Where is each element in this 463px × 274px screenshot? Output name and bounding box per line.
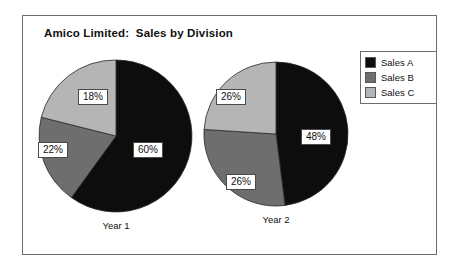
legend-label-sales-c: Sales C [381,87,414,98]
legend-swatch-sales-c [365,87,376,98]
pie-year-1-caption: Year 1 [38,220,194,231]
pie-year-1-label-sales-a: 60% [133,142,163,158]
legend-label-sales-b: Sales B [381,72,414,83]
pie-year-2-caption: Year 2 [202,214,350,225]
legend-item-sales-a[interactable]: Sales A [365,55,432,70]
pie-year-2-slice-sales-b[interactable] [204,129,285,206]
legend-item-sales-b[interactable]: Sales B [365,70,432,85]
chart-legend: Sales A Sales B Sales C [360,51,437,104]
pie-year-1-graphic [38,58,194,214]
pie-year-1-label-sales-c: 18% [78,89,108,105]
pie-year-2-label-sales-a: 48% [301,129,331,145]
legend-item-sales-c[interactable]: Sales C [365,85,432,100]
pie-year-2-label-sales-c: 26% [216,89,246,105]
legend-swatch-sales-a [365,57,376,68]
legend-label-sales-a: Sales A [381,57,413,68]
legend-swatch-sales-b [365,72,376,83]
chart-frame: Amico Limited: Sales by Division Sales A… [22,15,437,255]
pie-year-1-label-sales-b: 22% [38,142,68,158]
pie-year-2-label-sales-b: 26% [226,174,256,190]
chart-title: Amico Limited: Sales by Division [44,27,233,39]
